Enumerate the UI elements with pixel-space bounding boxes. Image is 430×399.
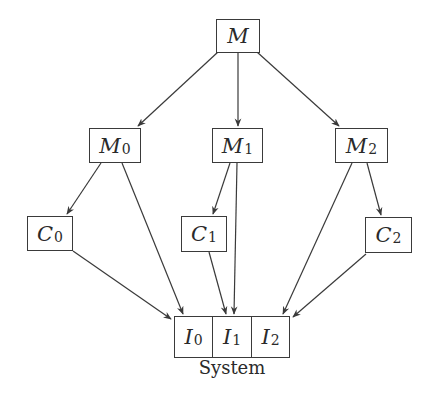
diagram-canvas: M M0 M1 M2 C0 C1 C2 I0 I1 I2 System [0, 0, 430, 399]
edge-m2-to-c2 [367, 163, 381, 215]
node-c0-label: C [37, 222, 53, 246]
edge-m-to-m0 [138, 52, 218, 126]
edge-c0-to-i0 [73, 251, 171, 319]
node-c2: C2 [365, 217, 412, 253]
edge-m0-to-c0 [67, 163, 101, 214]
edge-c2-to-i2 [293, 254, 366, 317]
node-c2-subscript: 2 [393, 230, 402, 246]
node-c1: C1 [181, 216, 227, 252]
edge-m-to-m2 [257, 52, 339, 126]
node-c0: C0 [27, 216, 73, 251]
node-c1-label: C [191, 222, 207, 246]
system-cell-i1-label: I [223, 325, 231, 349]
node-m1: M1 [212, 128, 263, 163]
node-c2-label: C [376, 223, 392, 247]
edge-m1-to-i1 [234, 163, 237, 314]
system-cell-i1: I1 [212, 316, 252, 358]
node-m2-subscript: 2 [368, 141, 377, 157]
system-cell-i2: I2 [251, 316, 290, 358]
node-c1-subscript: 1 [208, 229, 217, 245]
system-cell-i2-subscript: 2 [271, 332, 280, 348]
node-m2-label: M [346, 134, 368, 158]
node-m0-label: M [99, 134, 121, 158]
node-m: M [216, 19, 260, 53]
node-m0: M0 [89, 128, 141, 163]
system-cell-i2-label: I [261, 325, 269, 349]
node-c0-subscript: 0 [54, 229, 63, 245]
system-cell-i0: I0 [174, 316, 213, 358]
system-cell-i0-label: I [184, 325, 192, 349]
edge-m1-to-c1 [213, 163, 230, 214]
system-cell-i0-subscript: 0 [194, 332, 203, 348]
edge-m2-to-i2 [283, 163, 352, 314]
node-m1-subscript: 1 [244, 141, 253, 157]
system-caption: System [174, 357, 290, 378]
node-m1-label: M [222, 134, 244, 158]
node-m-label: M [227, 24, 249, 48]
system-cell-i1-subscript: 1 [232, 332, 241, 348]
edge-c1-to-i1 [209, 252, 226, 314]
node-m2: M2 [335, 128, 388, 163]
node-m0-subscript: 0 [122, 141, 131, 157]
